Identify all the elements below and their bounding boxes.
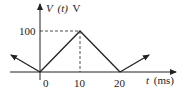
x-label-unit: (ms) [154,74,175,87]
y-label-arg: (t) [57,2,68,15]
tick-label-10: 10 [74,77,86,89]
y-label-unit: V [72,2,80,14]
tick-label-20: 20 [114,77,126,89]
waveform-continuation-right [120,55,149,72]
x-label-var: t [146,74,150,86]
waveform-continuation-left [11,55,40,72]
y-label-var: V [46,2,54,14]
y-axis-label: V (t) V [46,2,80,15]
tick-label-0: 0 [43,77,49,89]
x-axis-label: t (ms) [146,74,174,87]
waveform-chart: V (t) V 100 0 10 20 t (ms) [0,0,187,95]
tick-label-100: 100 [19,25,36,37]
